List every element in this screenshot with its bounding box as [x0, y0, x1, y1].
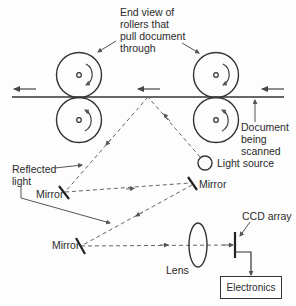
light-source-icon: [198, 156, 212, 170]
lens-icon: [189, 223, 207, 267]
electronics-box: Electronics: [220, 276, 282, 299]
mirror-upper-right-icon: [188, 177, 197, 190]
electronics-label: Electronics: [227, 282, 276, 293]
scanner-diagram: End view of rollers that pull document t…: [0, 0, 296, 306]
mirror-upper-left-label: Mirror: [36, 188, 63, 200]
light-source-label: Light source: [217, 157, 274, 169]
mirror-upper-right-label: Mirror: [199, 178, 226, 190]
ccd-pointer: [240, 222, 250, 236]
ccd-to-electronics-wire: [235, 252, 251, 275]
ccd-array-label: CCD array: [242, 210, 292, 222]
document-label: Document being scanned: [241, 121, 289, 157]
rollers-label: End view of rollers that pull document t…: [120, 6, 185, 54]
lens-label: Lens: [166, 264, 189, 276]
optical-path: [65, 97, 233, 246]
mirror-lower-label: Mirror: [52, 239, 79, 251]
reflected-light-label: Reflected light: [12, 163, 56, 187]
